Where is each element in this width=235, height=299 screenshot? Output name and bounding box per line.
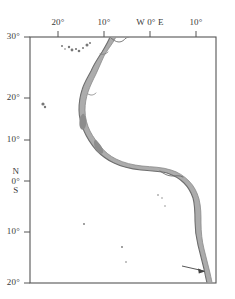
lat-tick-label-equator: N 0° S	[12, 167, 21, 196]
island-marker	[71, 49, 74, 52]
plot-frame	[30, 37, 216, 283]
left-axis-ticks	[24, 37, 30, 283]
lat-tick-label-10s: 10°	[7, 227, 20, 237]
continental-shelf-band	[79, 37, 212, 283]
island-marker	[68, 46, 70, 48]
island-marker	[75, 48, 77, 50]
island-marker	[161, 197, 162, 198]
island-marker	[44, 106, 46, 108]
map-figure: 20° 10° W 0° E 10° 30° 20° 10° N 0° S 10…	[0, 0, 235, 299]
lat-tick-label-20s: 20°	[7, 278, 20, 288]
map-canvas	[0, 0, 235, 299]
island-marker	[82, 47, 84, 49]
island-marker	[157, 194, 159, 196]
lon-tick-label-0: W 0° E	[136, 18, 164, 28]
island-marker	[83, 223, 85, 225]
lon-tick-label-10w: 10°	[97, 18, 110, 28]
coast-bight-detail	[88, 93, 96, 95]
island-marker	[121, 246, 123, 248]
equator-south-letter: S	[12, 186, 21, 196]
lat-tick-label-10n: 10°	[7, 135, 20, 145]
top-axis-ticks	[58, 31, 196, 37]
lon-tick-label-20w: 20°	[51, 18, 64, 28]
island-marker	[78, 50, 81, 53]
lat-tick-label-30n: 30°	[7, 32, 20, 42]
island-marker	[164, 205, 165, 206]
island-marker	[41, 102, 44, 105]
island-marker	[125, 261, 127, 263]
shelf-inner-edge	[85, 37, 212, 283]
island-marker	[64, 48, 66, 50]
lat-tick-label-20n: 20°	[7, 93, 20, 103]
coast-arrow	[182, 266, 205, 274]
island-marker	[86, 44, 89, 47]
lon-tick-label-10e: 10°	[189, 18, 202, 28]
coast-peninsula-b	[94, 140, 103, 154]
coastline	[79, 37, 207, 283]
island-marker	[89, 42, 91, 44]
island-marker	[61, 45, 63, 47]
